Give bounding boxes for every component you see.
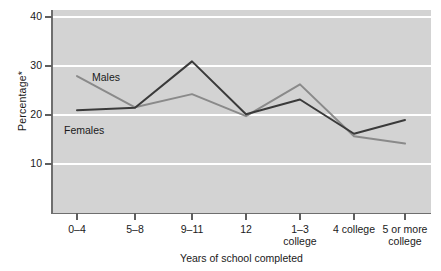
x-tick-mark [191, 213, 193, 220]
series-label-males: Males [92, 71, 120, 83]
x-tick-mark [404, 213, 406, 220]
y-tick-mark [45, 16, 52, 18]
series-line-females [77, 61, 405, 133]
y-tick-mark [45, 114, 52, 116]
x-tick-mark [76, 213, 78, 220]
y-axis-title: Percentage* [16, 31, 28, 171]
y-tick-label: 40 [14, 11, 42, 22]
series-label-females: Females [64, 124, 104, 136]
y-tick-label: 30 [14, 60, 42, 71]
x-tick-mark [245, 213, 247, 220]
x-axis-title: Years of school completed [52, 252, 431, 264]
x-tick-label: 5 or morecollege [357, 224, 441, 247]
x-tick-mark [134, 213, 136, 220]
x-tick-mark [299, 213, 301, 220]
y-tick-label: 20 [14, 109, 42, 120]
chart-figure: Percentage* 10203040 0–45–89–11121–3coll… [0, 0, 441, 271]
y-tick-label: 10 [14, 158, 42, 169]
y-tick-mark [45, 163, 52, 165]
y-tick-mark [45, 65, 52, 67]
x-tick-mark [353, 213, 355, 220]
series-lines [52, 10, 431, 213]
